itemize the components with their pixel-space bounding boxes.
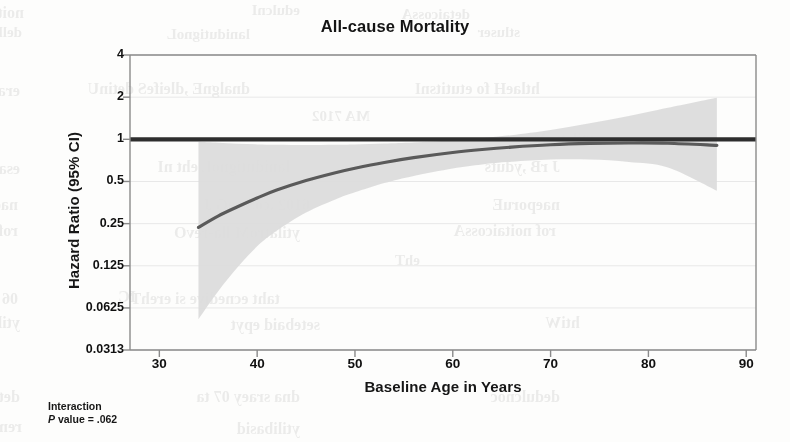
y-tick-label-0.5: 0.5 — [44, 173, 124, 187]
x-axis-title: Baseline Age in Years — [130, 378, 756, 395]
x-tick-label-80: 80 — [628, 356, 668, 371]
y-tick-label-1: 1 — [44, 131, 124, 145]
y-tick-label-4: 4 — [44, 47, 124, 61]
y-tick-label-0.0313: 0.0313 — [44, 342, 124, 356]
y-tick-label-2: 2 — [44, 89, 124, 103]
x-tick-label-50: 50 — [335, 356, 375, 371]
y-tick-label-0.125: 0.125 — [44, 258, 124, 272]
y-axis-tick-labels: 4210.50.250.1250.06250.0313 — [42, 0, 124, 442]
x-tick-label-40: 40 — [237, 356, 277, 371]
confidence-band — [198, 98, 716, 319]
interaction-p-value-footnote: Interaction P value = .062 — [48, 400, 117, 426]
x-tick-label-70: 70 — [531, 356, 571, 371]
footnote-p-value: value = .062 — [55, 413, 117, 425]
x-tick-label-60: 60 — [433, 356, 473, 371]
x-tick-label-90: 90 — [726, 356, 766, 371]
footnote-line-1: Interaction — [48, 400, 117, 413]
x-tick-label-30: 30 — [139, 356, 179, 371]
footnote-p-symbol: P — [48, 413, 55, 425]
y-tick-label-0.0625: 0.0625 — [44, 300, 124, 314]
y-axis-title: Hazard Ratio (95% CI) — [65, 61, 82, 361]
chart-figure: All-cause Mortality 4210.50.250.1250.062… — [0, 0, 790, 442]
footnote-line-2: P value = .062 — [48, 413, 117, 426]
ci-band-area — [198, 98, 716, 319]
y-tick-label-0.25: 0.25 — [44, 216, 124, 230]
